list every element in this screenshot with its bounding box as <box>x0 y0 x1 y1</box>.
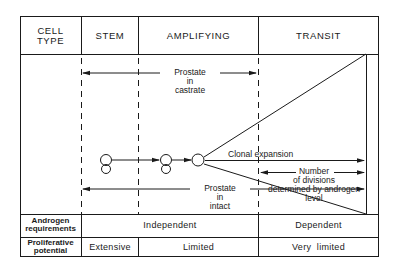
androgen-independent: Independent <box>82 221 258 230</box>
amplifying-cell <box>161 155 172 166</box>
header-cell-type-line2: TYPE <box>20 36 81 46</box>
header-stem: STEM <box>82 31 138 41</box>
androgen-row-label: Androgen requirements <box>20 217 81 233</box>
stem-cell <box>101 155 112 166</box>
proliferative-stem: Extensive <box>82 243 138 252</box>
divisions-line4: level <box>262 194 366 203</box>
prostate-intact-label: Prostate in intact <box>190 184 250 211</box>
proliferative-transit: Very limited <box>259 243 378 252</box>
expansion-upper <box>204 54 366 157</box>
prostate-castrate-line3: castrate <box>160 86 220 95</box>
androgen-dependent: Dependent <box>259 221 378 230</box>
prostate-castrate-label: Prostate in castrate <box>160 68 220 95</box>
prostate-intact-line3: intact <box>190 202 250 211</box>
proliferative-row-label: Proliferative potential <box>20 239 81 255</box>
clonal-expansion-label: Clonal expansion <box>228 150 293 159</box>
transit-cell <box>192 154 204 166</box>
header-amplifying: AMPLIFYING <box>139 31 258 41</box>
androgen-label-line2: requirements <box>20 225 81 233</box>
divisions-label: Number of divisions determined by androg… <box>262 167 366 203</box>
header-transit: TRANSIT <box>259 31 378 41</box>
header-cell-type: CELL TYPE <box>20 26 81 46</box>
proliferative-label-line2: potential <box>20 247 81 255</box>
proliferative-amplifying: Limited <box>139 243 258 252</box>
